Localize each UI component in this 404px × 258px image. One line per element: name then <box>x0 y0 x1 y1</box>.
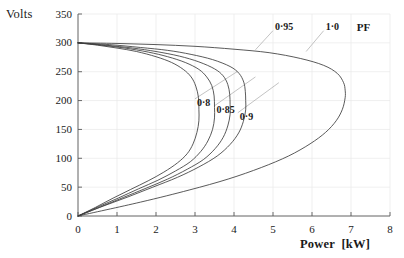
x-tick-label: 5 <box>263 224 283 235</box>
y-tick-label: 200 <box>42 95 72 106</box>
y-tick-label: 150 <box>42 124 72 135</box>
curve-label-0·95: 0·95 <box>275 22 293 32</box>
x-tick-label: 8 <box>380 224 400 235</box>
y-tick-label: 0 <box>42 211 72 222</box>
y-tick-label: 300 <box>42 37 72 48</box>
chart-figure: Volts Power [kW] 350300250200150100500 0… <box>0 0 404 258</box>
x-tick-label: 3 <box>185 224 205 235</box>
x-tick-label: 4 <box>224 224 244 235</box>
curve-label-0·85: 0·85 <box>216 105 234 115</box>
grid-lines <box>78 14 390 216</box>
curve-label-0·8: 0·8 <box>197 98 210 108</box>
y-tick-label: 100 <box>42 153 72 164</box>
y-axis-title: Volts <box>6 8 32 21</box>
x-tick-label: 6 <box>302 224 322 235</box>
curve-label-1·0: 1·0 <box>326 22 339 32</box>
x-tick-label: 0 <box>68 224 88 235</box>
y-tick-label: 250 <box>42 66 72 77</box>
curve-label-0·9: 0·9 <box>240 112 253 122</box>
x-tick-label: 7 <box>341 224 361 235</box>
x-tick-label: 1 <box>107 224 127 235</box>
curve-label-PF: PF <box>357 22 370 33</box>
y-tick-label: 350 <box>42 9 72 20</box>
y-tick-label: 50 <box>42 182 72 193</box>
x-axis-title: Power [kW] <box>300 238 370 251</box>
x-tick-label: 2 <box>146 224 166 235</box>
